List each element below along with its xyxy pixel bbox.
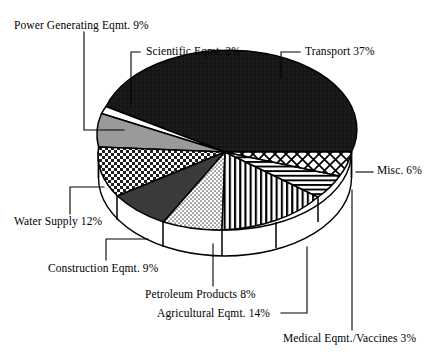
leader-agricultural (281, 247, 307, 313)
slice-label-medical: Medical Eqmt./Vaccines 3% (283, 332, 416, 345)
slice-label-petroleum: Petroleum Products 8% (145, 288, 256, 301)
slice-label-misc: Misc. 6% (377, 164, 422, 177)
slice-label-power-generating: Power Generating Eqmt. 9% (14, 19, 149, 32)
leader-water-supply (70, 187, 104, 214)
slice-label-water-supply: Water Supply 12% (14, 215, 102, 228)
slice-label-transport: Transport 37% (305, 45, 375, 58)
slice-label-agricultural: Agricultural Eqmt. 14% (157, 307, 270, 320)
slice-label-construction: Construction Eqmt. 9% (48, 262, 158, 275)
slice-label-scientific: Scientific Eqmt. 2% (146, 45, 241, 58)
leader-construction (106, 239, 148, 260)
pie-chart-figure: Power Generating Eqmt. 9% Scientific Eqm… (0, 0, 446, 362)
